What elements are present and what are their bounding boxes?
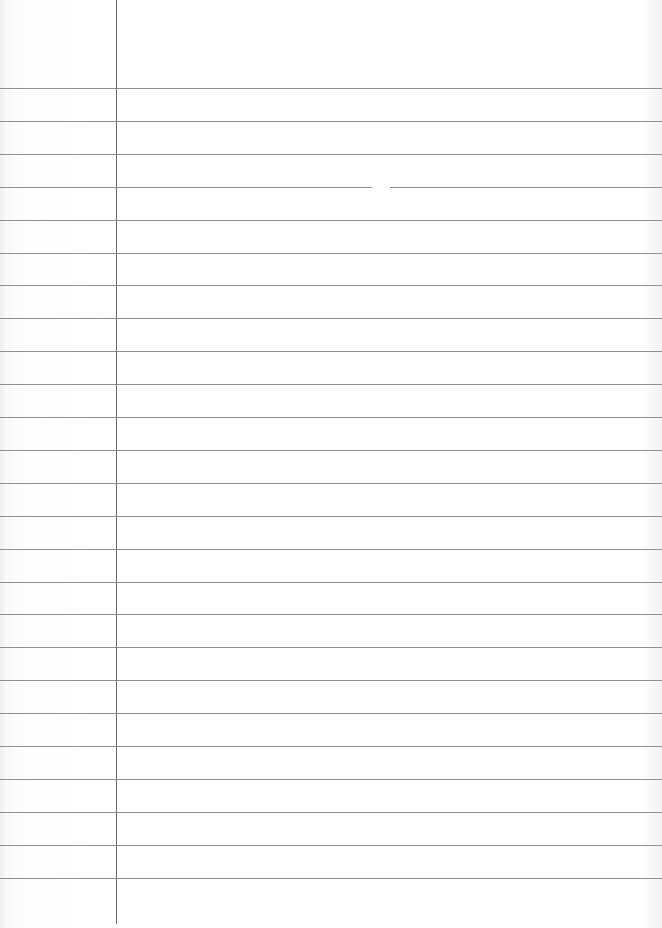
ruled-line — [0, 680, 662, 681]
margin-line — [116, 0, 117, 924]
ruled-line — [0, 384, 662, 385]
ruled-line — [0, 516, 662, 517]
ruled-line — [0, 812, 662, 813]
ruled-line — [0, 351, 662, 352]
lined-paper-sheet — [0, 0, 662, 928]
ruled-line — [0, 285, 662, 286]
ruled-line — [0, 878, 662, 879]
ruled-line — [0, 417, 662, 418]
ruled-line — [0, 483, 662, 484]
ruled-line — [0, 647, 662, 648]
ruled-line — [0, 549, 662, 550]
ruled-line — [0, 746, 662, 747]
ruled-line — [0, 318, 662, 319]
ruled-line — [0, 154, 662, 155]
ruled-line — [0, 121, 662, 122]
rule-gap — [372, 187, 390, 189]
ruled-line — [0, 220, 662, 221]
ruled-line — [0, 713, 662, 714]
ruled-line — [0, 614, 662, 615]
ruled-line — [0, 88, 662, 89]
ruled-line — [0, 187, 662, 188]
ruled-line — [0, 253, 662, 254]
ruled-line — [0, 779, 662, 780]
ruled-line — [0, 582, 662, 583]
ruled-line — [0, 450, 662, 451]
ruled-line — [0, 845, 662, 846]
